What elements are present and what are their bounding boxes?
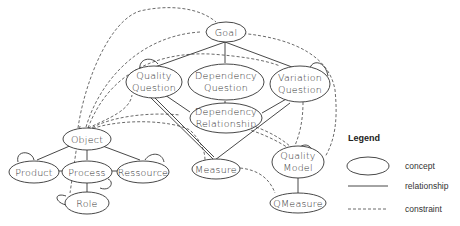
node-ressource[interactable]: Ressource (117, 161, 169, 183)
node-role-label: Role (76, 198, 97, 209)
legend-constraint-label: constraint (405, 204, 442, 214)
node-quality-model-label-1: Quality (280, 150, 316, 161)
legend-title: Legend (348, 133, 380, 143)
constraint-variation-qualitymodel (293, 102, 303, 150)
legend-relationship-label: relationship (405, 181, 449, 191)
node-process-label: Process (68, 167, 105, 178)
metamodel-diagram: Goal Quality Question Dependency Questio… (0, 0, 460, 226)
node-dependency-relationship-label-1: Dependency (195, 106, 257, 117)
node-goal-label: Goal (215, 27, 237, 38)
node-dependency-question-label-1: Dependency (195, 70, 257, 81)
legend-concept-symbol (347, 157, 389, 175)
node-dependency-relationship-label-2: Relationship (196, 118, 257, 129)
node-variation-question-label-2: Question (278, 84, 322, 95)
node-variation-question[interactable]: Variation Question (270, 66, 330, 102)
node-dependency-question-label-2: Question (204, 82, 248, 93)
node-measure-label: Measure (195, 164, 237, 175)
node-variation-question-label-1: Variation (278, 72, 322, 83)
node-dependency-question[interactable]: Dependency Question (188, 64, 264, 100)
legend-concept-label: concept (405, 161, 435, 171)
node-process[interactable]: Process (62, 161, 112, 183)
node-quality-question[interactable]: Quality Question (126, 66, 182, 98)
node-role[interactable]: Role (65, 192, 109, 214)
node-quality-model[interactable]: Quality Model (272, 146, 324, 178)
node-measure[interactable]: Measure (192, 159, 240, 179)
node-product[interactable]: Product (9, 161, 59, 183)
node-quality-model-label-2: Model (283, 162, 313, 173)
node-qmeasure-label: QMeasure (273, 198, 322, 209)
node-object[interactable]: Object (63, 128, 111, 150)
legend: Legend concept relationship constraint (347, 133, 449, 214)
node-product-label: Product (15, 167, 53, 178)
node-dependency-relationship[interactable]: Dependency Relationship (190, 103, 262, 133)
node-quality-question-label-1: Quality (136, 70, 172, 81)
node-qmeasure[interactable]: QMeasure (270, 193, 326, 213)
node-quality-question-label-2: Question (132, 82, 176, 93)
node-object-label: Object (71, 134, 103, 145)
node-goal[interactable]: Goal (206, 22, 246, 42)
constraint-measure-qmeasure (240, 168, 275, 193)
constraint-object-qualityquestion (88, 95, 132, 128)
node-ressource-label: Ressource (118, 167, 168, 178)
